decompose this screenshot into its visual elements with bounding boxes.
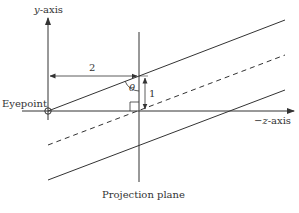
perspective-projection-diagram: y-axis −z-axis Eyepoint Projection plane…	[0, 0, 299, 213]
projection-plane-label: Projection plane	[102, 189, 185, 200]
right-angle-mark	[130, 102, 139, 111]
theta-label: θ	[129, 82, 135, 93]
dashed-ray-line	[48, 55, 285, 145]
bottom-ray-line	[48, 90, 285, 180]
z-axis-label: −z-axis	[254, 115, 291, 126]
top-ray-line	[48, 20, 285, 111]
height-label: 1	[149, 88, 155, 99]
distance-label: 2	[89, 62, 95, 73]
y-axis-label: y-axis	[33, 4, 63, 15]
eyepoint-label: Eyepoint	[2, 98, 47, 109]
